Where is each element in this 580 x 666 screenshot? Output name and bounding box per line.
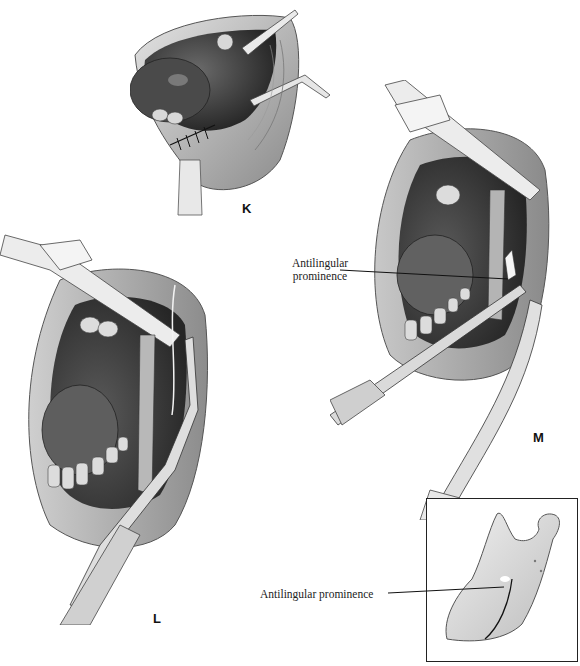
callout-leader-line-m <box>340 265 510 285</box>
callout-leader-line-inset <box>388 585 508 600</box>
panel-m-label: M <box>533 430 544 445</box>
panel-m-illustration <box>330 80 580 520</box>
antilingular-prominence-callout-inset: Antilingular prominence <box>260 588 373 601</box>
panel-l-illustration <box>0 225 240 625</box>
panel-k-label: K <box>242 201 251 216</box>
panel-l-label: L <box>153 611 161 626</box>
inset-mandible-box <box>426 498 578 662</box>
mandible-ramus-illustration <box>427 499 577 661</box>
figure-canvas: K <box>0 0 580 666</box>
panel-k-illustration <box>130 0 350 220</box>
